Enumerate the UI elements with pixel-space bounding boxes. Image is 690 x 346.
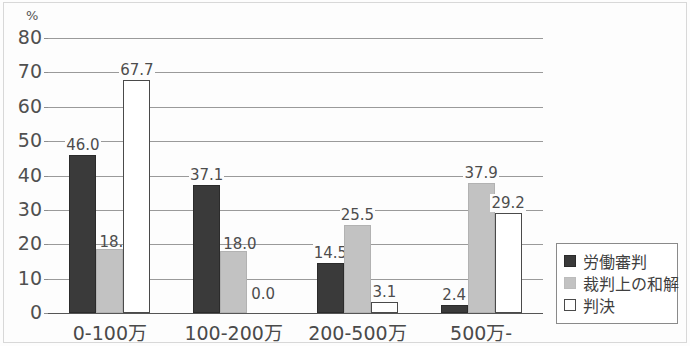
- bar-value-label-2-1: 0.0: [250, 285, 290, 303]
- legend-label-1: 裁判上の和解: [583, 271, 679, 295]
- plot-area: 46.018.667.737.118.00.014.525.53.12.437.…: [48, 38, 543, 313]
- legend-label-0: 労働審判: [583, 249, 647, 273]
- bar-value-label-1-2: 25.5: [335, 206, 379, 224]
- legend-swatch-dark-filled-square-icon: [564, 255, 576, 267]
- x-tick-label-1: 100-200万: [172, 318, 296, 345]
- bar-value-label-1-3: 37.9: [459, 164, 503, 182]
- gridline-60: [48, 107, 543, 108]
- gridline-0: [48, 313, 543, 314]
- y-tick-label-30: 30: [0, 198, 42, 220]
- legend-item-2: 判決: [564, 294, 670, 316]
- bar-value-label-1-1: 18.0: [222, 235, 266, 253]
- bar-value-label-0-0: 46.0: [61, 136, 105, 154]
- legend-swatch-white-outlined-square-icon: [564, 299, 576, 311]
- bar-1-1: [220, 251, 247, 313]
- bar-0-1: [193, 185, 220, 313]
- bar-value-label-2-2: 3.1: [362, 283, 406, 301]
- y-tick-label-70: 70: [0, 60, 42, 82]
- legend-swatch-gray-filled-square-icon: [564, 277, 576, 289]
- bar-value-label-2-0: 67.7: [115, 61, 159, 79]
- bar-value-label-2-3: 29.2: [486, 194, 530, 212]
- y-tick-label-80: 80: [0, 26, 42, 48]
- bar-2-0: [123, 80, 150, 313]
- gridline-50: [48, 141, 543, 142]
- legend-item-1: 裁判上の和解: [564, 272, 670, 294]
- chart-screenshot: % 01020304050607080 46.018.667.737.118.0…: [0, 0, 690, 346]
- bar-0-2: [317, 263, 344, 313]
- x-tick-label-0: 0-100万: [48, 318, 172, 345]
- y-tick-label-60: 60: [0, 95, 42, 117]
- chart-legend: 労働審判 裁判上の和解 判決: [556, 243, 678, 324]
- bar-value-label-0-1: 37.1: [185, 166, 229, 184]
- gridline-80: [48, 38, 543, 39]
- y-axis: 01020304050607080: [0, 0, 48, 346]
- bar-2-2: [371, 302, 398, 313]
- y-tick-label-0: 0: [0, 301, 42, 323]
- bar-1-0: [96, 249, 123, 313]
- legend-item-0: 労働審判: [564, 250, 670, 272]
- y-tick-label-40: 40: [0, 164, 42, 186]
- x-tick-label-2: 200-500万: [296, 318, 420, 345]
- y-tick-label-50: 50: [0, 129, 42, 151]
- legend-label-2: 判決: [583, 293, 615, 317]
- bar-0-3: [441, 305, 468, 313]
- x-tick-label-3: 500万-: [419, 318, 543, 345]
- bar-2-3: [495, 213, 522, 313]
- y-tick-label-20: 20: [0, 232, 42, 254]
- y-tick-label-10: 10: [0, 267, 42, 289]
- bar-0-0: [69, 155, 96, 313]
